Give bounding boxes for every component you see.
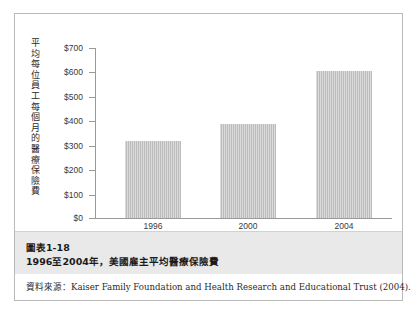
bar-2004 bbox=[316, 71, 372, 218]
caption-number: 圖表1-18 bbox=[26, 240, 70, 254]
chart-plot-area: 平均每位員工每個月的醫療保險費 $700 $600 $500 $400 $300… bbox=[15, 14, 402, 231]
x-axis-line bbox=[95, 218, 392, 219]
caption-band: 圖表1-18 1996至2004年，美國雇主平均醫療保險費 bbox=[15, 231, 402, 274]
y-tick-label: $0 bbox=[47, 213, 83, 223]
y-tick-label: $200 bbox=[47, 165, 83, 175]
y-axis-line bbox=[95, 48, 96, 219]
y-tick-label: $100 bbox=[47, 190, 83, 200]
y-tick-label: $400 bbox=[47, 116, 83, 126]
source-note: 資料來源：Kaiser Family Foundation and Health… bbox=[26, 280, 398, 292]
y-tick-label: $300 bbox=[47, 141, 83, 151]
y-tick-label: $700 bbox=[47, 43, 83, 53]
x-tick-label-1996: 1996 bbox=[118, 221, 188, 231]
y-axis-title: 平均每位員工每個月的醫療保險費 bbox=[27, 38, 43, 197]
y-tick-label: $500 bbox=[47, 92, 83, 102]
figure-container: 平均每位員工每個月的醫療保險費 $700 $600 $500 $400 $300… bbox=[14, 13, 403, 301]
x-tick-label-2004: 2004 bbox=[309, 221, 379, 231]
y-axis-tick-labels: $700 $600 $500 $400 $300 $200 $100 $0 bbox=[47, 14, 83, 231]
caption-title: 1996至2004年，美國雇主平均醫療保險費 bbox=[26, 254, 219, 268]
bar-1996 bbox=[125, 141, 181, 218]
bar-2000 bbox=[220, 124, 276, 218]
y-tick-label: $600 bbox=[47, 67, 83, 77]
x-tick-label-2000: 2000 bbox=[213, 221, 283, 231]
